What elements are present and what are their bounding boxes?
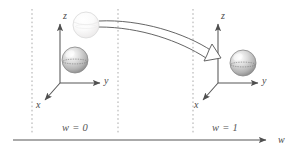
axis-label-z-left: z [63,11,67,21]
x-axis-left [45,83,60,100]
axis-label-x-right: x [194,100,198,110]
sphere-at-origin-left [62,47,88,73]
figure-canvas: z y x z y x w = 0 w = 1 w [0,0,300,157]
transport-arrow [99,21,221,61]
axis-label-w: w [278,135,285,145]
sphere-source-ghost [73,12,99,38]
diagram-svg [0,0,300,157]
axis-label-z-right: z [221,11,225,21]
transport-arrow-edge-top [99,21,212,51]
axis-label-x-left: x [36,100,40,110]
transport-arrow-edge-bottom [99,27,206,58]
x-axis-right [203,83,218,100]
plane-label-w1: w = 1 [212,123,238,134]
sphere-at-origin-right [230,50,256,76]
axis-label-y-left: y [104,76,108,86]
plane-label-w0: w = 0 [62,123,88,134]
axis-label-y-right: y [262,76,266,86]
